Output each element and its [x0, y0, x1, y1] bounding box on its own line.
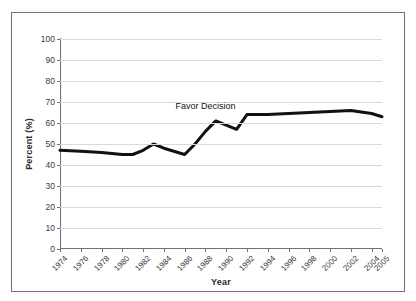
- x-tick-label: 1994: [258, 254, 277, 273]
- x-tick-label: 1978: [92, 254, 111, 273]
- y-tick-label: 0: [50, 244, 55, 254]
- x-tick-mark: [309, 249, 310, 252]
- y-tick-label: 70: [46, 97, 55, 107]
- y-tick-label: 100: [41, 34, 55, 44]
- x-axis-title: Year: [60, 277, 382, 287]
- x-tick-mark: [289, 249, 290, 252]
- gridline: [60, 39, 382, 40]
- x-tick-label: 1980: [113, 254, 132, 273]
- x-tick-label: 1986: [175, 254, 194, 273]
- y-tick-mark: [57, 39, 60, 40]
- x-tick-label: 1974: [50, 254, 69, 273]
- gridline: [60, 207, 382, 208]
- y-tick-label: 20: [46, 202, 55, 212]
- y-tick-mark: [57, 186, 60, 187]
- x-tick-mark: [226, 249, 227, 252]
- gridline: [60, 165, 382, 166]
- figure: Percent (%) 0102030405060708090100197419…: [0, 0, 416, 301]
- x-tick-label: 1990: [217, 254, 236, 273]
- x-tick-mark: [247, 249, 248, 252]
- x-tick-label: 2000: [320, 254, 339, 273]
- y-tick-label: 90: [46, 55, 55, 65]
- x-tick-label: 1976: [71, 254, 90, 273]
- y-tick-label: 60: [46, 118, 55, 128]
- plot-area: 0102030405060708090100197419761978198019…: [60, 39, 382, 249]
- gridline: [60, 123, 382, 124]
- y-tick-mark: [57, 123, 60, 124]
- x-tick-mark: [382, 249, 383, 252]
- y-tick-label: 80: [46, 76, 55, 86]
- y-tick-mark: [57, 207, 60, 208]
- x-tick-label: 1996: [279, 254, 298, 273]
- gridline: [60, 60, 382, 61]
- y-tick-label: 10: [46, 223, 55, 233]
- y-tick-mark: [57, 165, 60, 166]
- series-annotation-label: Favor Decision: [175, 101, 235, 111]
- y-axis-title-text: Percent (%): [24, 118, 34, 170]
- x-tick-mark: [268, 249, 269, 252]
- x-tick-mark: [122, 249, 123, 252]
- y-tick-mark: [57, 144, 60, 145]
- gridline: [60, 228, 382, 229]
- y-tick-label: 30: [46, 181, 55, 191]
- x-tick-label: 1992: [237, 254, 256, 273]
- x-tick-mark: [143, 249, 144, 252]
- y-axis-title: Percent (%): [22, 39, 36, 249]
- gridline: [60, 144, 382, 145]
- x-tick-mark: [351, 249, 352, 252]
- plot-wrapper: Percent (%) 0102030405060708090100197419…: [0, 0, 416, 301]
- x-tick-label: 1988: [196, 254, 215, 273]
- gridline: [60, 81, 382, 82]
- x-tick-label: 1984: [154, 254, 173, 273]
- x-tick-mark: [81, 249, 82, 252]
- x-tick-mark: [330, 249, 331, 252]
- x-tick-label: 1998: [300, 254, 319, 273]
- y-tick-mark: [57, 60, 60, 61]
- x-tick-mark: [185, 249, 186, 252]
- x-tick-label: 1982: [134, 254, 153, 273]
- gridline: [60, 186, 382, 187]
- x-tick-mark: [60, 249, 61, 252]
- y-tick-label: 50: [46, 139, 55, 149]
- y-tick-mark: [57, 102, 60, 103]
- data-series-line: [60, 110, 382, 154]
- y-tick-mark: [57, 228, 60, 229]
- x-tick-label: 2002: [341, 254, 360, 273]
- x-tick-mark: [205, 249, 206, 252]
- x-tick-mark: [372, 249, 373, 252]
- x-tick-mark: [164, 249, 165, 252]
- y-tick-label: 40: [46, 160, 55, 170]
- y-tick-mark: [57, 81, 60, 82]
- x-tick-mark: [102, 249, 103, 252]
